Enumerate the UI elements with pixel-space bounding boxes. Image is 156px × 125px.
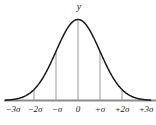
- x-tick-label-plus-1-sigma: +σ: [95, 104, 105, 114]
- x-tick-label-minus-3-sigma: −3σ: [6, 104, 21, 114]
- y-axis-label: y: [77, 1, 81, 12]
- x-tick-label-plus-2-sigma: +2σ: [115, 104, 130, 114]
- x-tick-label-plus-3-sigma: +3σ: [139, 104, 154, 114]
- x-tick-label-zero: 0: [76, 104, 80, 114]
- x-tick-label-minus-1-sigma: −σ: [52, 104, 62, 114]
- x-tick-label-minus-2-sigma: −2σ: [28, 104, 43, 114]
- normal-distribution-figure: y −3σ −2σ −σ 0 +σ +2σ +3σ: [0, 0, 156, 125]
